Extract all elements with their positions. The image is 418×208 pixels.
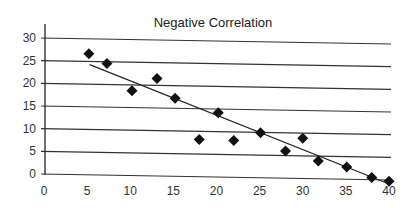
y-tick-label: 0 [29, 167, 36, 181]
x-tick-label: 5 [84, 184, 91, 198]
y-tick-label: 10 [23, 122, 37, 136]
x-tick-label: 10 [124, 184, 138, 198]
data-point-diamond [151, 73, 162, 84]
gridline [41, 151, 391, 157]
x-tick-label: 0 [41, 184, 48, 198]
x-tick-label: 20 [210, 184, 224, 198]
y-tick-label: 30 [23, 31, 37, 45]
x-tick-label: 30 [296, 184, 310, 198]
data-point-diamond [280, 145, 291, 156]
y-tick-label: 20 [23, 76, 37, 90]
y-axis-ticks: 051015202530 [23, 31, 37, 181]
x-axis-ticks: 0510152025303540 [41, 184, 396, 198]
data-point-diamond [255, 127, 266, 138]
data-points [83, 48, 394, 187]
data-point-diamond [194, 134, 205, 145]
gridline [41, 129, 391, 135]
data-point-diamond [101, 58, 112, 69]
x-tick-label: 15 [167, 184, 181, 198]
data-point-diamond [297, 133, 308, 144]
gridlines [41, 38, 391, 180]
gridline [41, 83, 391, 89]
y-tick-label: 25 [23, 54, 37, 68]
data-point-diamond [366, 172, 377, 183]
trendline [90, 65, 385, 183]
data-point-diamond [170, 93, 181, 104]
x-tick-label: 35 [339, 184, 353, 198]
y-tick-label: 5 [29, 144, 36, 158]
data-point-diamond [83, 48, 94, 59]
x-tick-label: 25 [253, 184, 267, 198]
gridline [41, 38, 391, 44]
y-tick-label: 15 [23, 99, 37, 113]
scatter-chart: Negative Correlation 051015202530 051015… [0, 0, 418, 208]
gridline [41, 174, 391, 180]
data-point-diamond [228, 135, 239, 146]
data-point-diamond [341, 161, 352, 172]
chart-title: Negative Correlation [154, 15, 273, 30]
data-point-diamond [126, 85, 137, 96]
